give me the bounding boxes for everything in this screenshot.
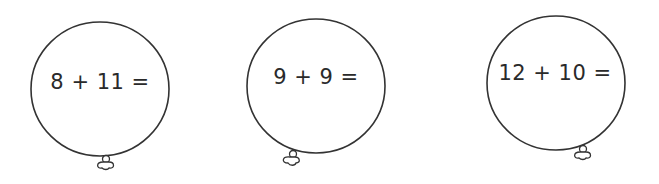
balloon-icon	[0, 0, 659, 184]
equation-text: 12 + 10 =	[498, 61, 611, 85]
